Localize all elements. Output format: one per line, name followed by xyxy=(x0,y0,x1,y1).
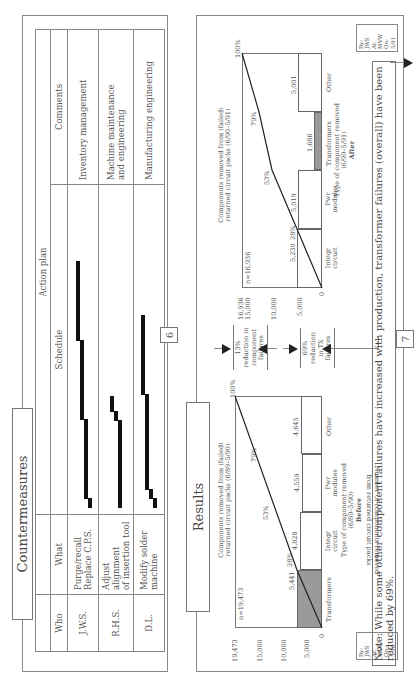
x-label: Transformers xyxy=(325,121,333,166)
stamp-line: At: MVW xyxy=(371,27,384,49)
stamp-line: On: 5/91 xyxy=(383,27,396,49)
x-label: Integrcircuit xyxy=(325,231,340,285)
x-label: Other xyxy=(325,73,333,92)
cum-pct: 28% xyxy=(289,226,297,240)
stamp-line: By: JWS xyxy=(358,27,371,49)
arrow-shaft xyxy=(390,62,404,63)
results-note: Note: While some other component failure… xyxy=(372,61,396,666)
after-x-axis-title: Type of component removed (6/90–5/91) Af… xyxy=(334,90,356,210)
after-caption: After xyxy=(349,90,356,210)
step-number-7: 7 xyxy=(396,330,414,348)
document-page: Countermeasures Action plan Who What Sch… xyxy=(0,0,418,680)
cum-pct: 100% xyxy=(234,39,242,58)
cum-pct: 53% xyxy=(263,171,271,185)
arrow-down-icon xyxy=(404,58,413,68)
cum-pct: 79% xyxy=(250,112,258,126)
after-stamp: By: JWS At: MVW On: 5/91 xyxy=(356,24,398,52)
